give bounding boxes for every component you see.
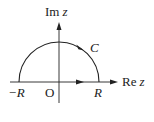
imaginary-axis-arrowhead xyxy=(57,22,62,30)
real-axis-arrowhead xyxy=(110,80,118,85)
r-label: R xyxy=(93,85,102,100)
contour-label: C xyxy=(90,40,99,55)
axis-direction-arrow xyxy=(76,80,84,85)
neg-r-label: −R xyxy=(8,85,25,100)
contour-diagram: Imz Rez C −R O R xyxy=(0,0,154,122)
imaginary-axis-label: Imz xyxy=(45,4,68,19)
origin-label: O xyxy=(45,85,54,100)
real-axis-label: Rez xyxy=(122,74,145,89)
